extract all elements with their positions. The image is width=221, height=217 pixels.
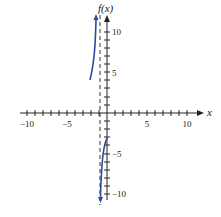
y-tick-label: −5 [112,149,122,159]
y-tick-label: 10 [112,27,122,37]
x-axis-arrow-icon [197,110,204,116]
x-tick-label: 10 [183,119,193,129]
x-axis-label: x [206,106,212,118]
y-tick-label: 5 [112,68,117,78]
x-tick-label: −10 [20,119,35,129]
lower-branch-curve [101,138,108,198]
y-tick-label: −10 [112,189,127,199]
y-axis-arrow-icon [104,15,110,22]
y-axis-label: f(x) [98,2,114,15]
axes [20,15,204,200]
upper-branch-curve [90,18,96,80]
arrow-down-icon [98,197,103,203]
arrow-up-icon [94,14,99,20]
function-graph: −10 −5 5 10 10 5 −5 −10 x f(x) [0,0,221,217]
x-tick-label: 5 [145,119,150,129]
x-tick-label: −5 [62,119,72,129]
